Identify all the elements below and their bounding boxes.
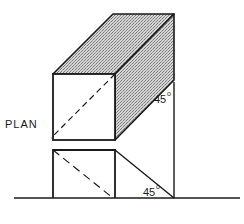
oblique-projection-diagram: PLAN 45 o 45 o	[0, 0, 244, 224]
plan-square	[53, 150, 115, 198]
plan-label: PLAN	[5, 118, 38, 130]
hidden-edge-plan	[53, 150, 113, 198]
degree-symbol-upper: o	[167, 90, 171, 97]
angle-label-upper: 45	[154, 93, 166, 105]
angle-label-lower: 45	[143, 186, 155, 198]
degree-symbol-lower: o	[156, 183, 160, 190]
